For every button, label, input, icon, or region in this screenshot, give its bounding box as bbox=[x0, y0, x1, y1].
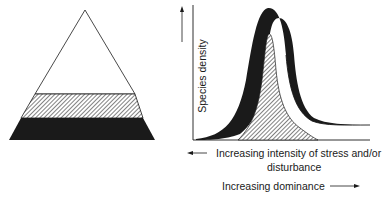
diagram-canvas bbox=[0, 0, 388, 197]
pyramid-top-white bbox=[35, 10, 135, 94]
x-axis-label-line2: disturbance bbox=[267, 162, 321, 173]
right-arrow-head bbox=[354, 184, 360, 188]
pyramid-middle-hatched bbox=[21, 94, 143, 118]
y-axis-label: Species density bbox=[196, 36, 208, 116]
y-arrow-head bbox=[180, 6, 184, 12]
left-arrow-head bbox=[187, 151, 193, 155]
pyramid bbox=[9, 10, 155, 140]
x-axis-label-line1: Increasing intensity of stress and/or bbox=[216, 148, 381, 159]
pyramid-bottom-black bbox=[9, 118, 155, 140]
dominance-label: Increasing dominance bbox=[222, 181, 325, 192]
